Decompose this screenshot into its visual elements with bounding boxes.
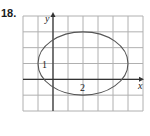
grid [23,16,143,111]
x-axis-label: x [137,80,143,91]
annotation-label: 2 [80,82,85,93]
y-axis-arrow [51,12,56,17]
annotation-label: 1 [42,59,47,70]
ellipse-graph: xy12 [0,0,150,136]
y-axis-label: y [44,13,50,24]
